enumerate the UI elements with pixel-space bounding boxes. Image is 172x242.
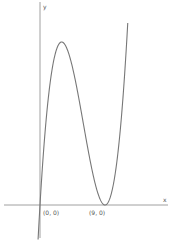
root-label: (9, 0) <box>89 209 105 216</box>
origin-label: (0, 0) <box>43 209 59 216</box>
y-axis-label: y <box>43 3 47 11</box>
cubic-curve <box>38 23 128 240</box>
function-graph: y x (0, 0) (9, 0) <box>0 0 172 242</box>
x-axis-label: x <box>163 196 167 203</box>
